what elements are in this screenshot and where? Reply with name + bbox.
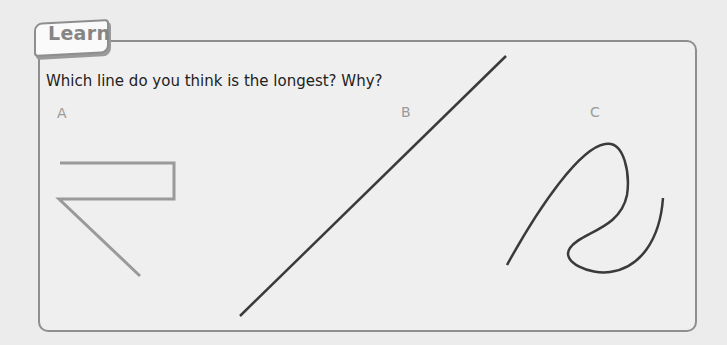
line-b [240,56,506,316]
lines-figure [0,0,727,345]
line-c [507,144,663,273]
line-a [59,163,174,276]
